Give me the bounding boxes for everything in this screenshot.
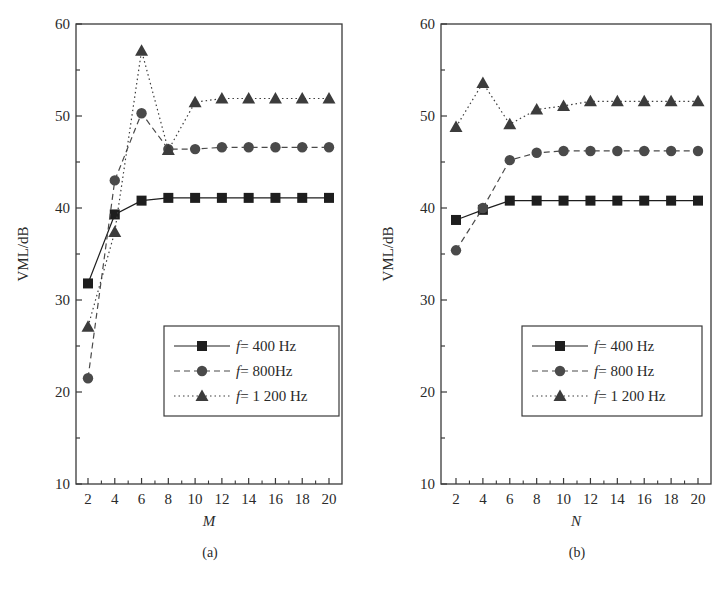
square-marker	[163, 193, 173, 203]
triangle-marker	[450, 121, 463, 132]
triangle-marker	[584, 95, 597, 107]
circle-marker	[243, 142, 253, 152]
legend-label: f= 1 200 Hz	[594, 388, 666, 404]
triangle-marker	[269, 92, 282, 104]
circle-marker	[531, 148, 541, 158]
panel-caption: (a)	[202, 545, 218, 561]
square-marker	[585, 196, 595, 206]
x-tick-label: 14	[241, 491, 257, 507]
triangle-marker	[215, 92, 228, 104]
triangle-marker	[611, 95, 624, 107]
square-marker	[217, 193, 227, 203]
x-axis-title: M	[202, 513, 217, 529]
y-axis-title: VML/dB	[380, 226, 396, 281]
x-tick-label: 2	[84, 491, 92, 507]
x-tick-label: 6	[138, 491, 146, 507]
chart-panel-b: 1020304050602468101214161820NVML/dB(b)f=…	[380, 16, 711, 561]
x-tick-label: 4	[479, 491, 487, 507]
square-marker	[451, 215, 461, 225]
y-tick-label: 50	[420, 108, 435, 124]
circle-marker	[136, 108, 146, 118]
panel-caption: (b)	[569, 545, 586, 561]
y-tick-label: 40	[55, 200, 70, 216]
circle-marker	[270, 142, 280, 152]
square-marker	[270, 193, 280, 203]
y-tick-label: 10	[420, 476, 435, 492]
series-square	[83, 193, 334, 289]
square-marker	[693, 196, 703, 206]
square-marker	[324, 193, 334, 203]
circle-marker	[83, 373, 93, 383]
triangle-marker	[296, 92, 309, 104]
y-tick-label: 20	[420, 384, 435, 400]
triangle-marker	[638, 95, 651, 107]
x-tick-label: 12	[583, 491, 598, 507]
circle-marker	[639, 146, 649, 156]
x-tick-label: 2	[452, 491, 460, 507]
series-triangle	[82, 44, 336, 332]
x-tick-label: 18	[664, 491, 679, 507]
square-marker	[110, 209, 120, 219]
circle-marker	[297, 142, 307, 152]
y-tick-label: 20	[55, 384, 70, 400]
legend: f= 400 Hzf= 800Hzf= 1 200 Hz	[164, 326, 339, 416]
x-tick-label: 10	[188, 491, 203, 507]
x-tick-label: 14	[610, 491, 626, 507]
circle-marker	[558, 146, 568, 156]
circle-marker	[585, 146, 595, 156]
square-marker	[532, 196, 542, 206]
square-marker	[612, 196, 622, 206]
y-tick-label: 40	[420, 200, 435, 216]
chart-panel-a: 1020304050602468101214161820MVML/dB(a)f=…	[15, 16, 342, 561]
series-line	[88, 198, 329, 284]
y-tick-label: 60	[420, 16, 435, 32]
x-tick-label: 6	[506, 491, 514, 507]
square-marker	[137, 196, 147, 206]
x-tick-label: 20	[691, 491, 706, 507]
triangle-marker	[135, 44, 148, 56]
y-axis-title: VML/dB	[15, 226, 31, 281]
legend: f= 400 Hzf= 800 Hzf= 1 200 Hz	[522, 326, 702, 416]
legend-label: f= 400 Hz	[594, 338, 654, 354]
x-tick-label: 12	[214, 491, 229, 507]
legend-label: f= 1 200 Hz	[236, 388, 308, 404]
y-tick-label: 30	[420, 292, 435, 308]
x-axis-title: N	[570, 513, 582, 529]
triangle-marker	[189, 96, 202, 108]
figure: 1020304050602468101214161820MVML/dB(a)f=…	[0, 0, 725, 592]
triangle-marker	[692, 95, 705, 107]
x-tick-label: 16	[268, 491, 284, 507]
square-marker	[190, 193, 200, 203]
triangle-marker	[665, 95, 678, 107]
y-tick-label: 10	[55, 476, 70, 492]
series-square	[451, 196, 703, 225]
legend-label: f= 400 Hz	[236, 338, 296, 354]
legend-label: f= 800Hz	[236, 363, 293, 379]
legend-circle-icon	[197, 366, 207, 376]
square-marker	[639, 196, 649, 206]
square-marker	[83, 278, 93, 288]
circle-marker	[693, 146, 703, 156]
series-line	[456, 201, 698, 220]
triangle-marker	[323, 92, 336, 104]
circle-marker	[505, 155, 515, 165]
triangle-marker	[503, 118, 516, 130]
x-tick-label: 8	[533, 491, 541, 507]
triangle-marker	[242, 92, 255, 104]
series-line	[88, 51, 329, 327]
square-marker	[505, 196, 515, 206]
square-marker	[666, 196, 676, 206]
circle-marker	[478, 203, 488, 213]
legend-square-icon	[197, 341, 207, 351]
circle-marker	[612, 146, 622, 156]
y-tick-label: 30	[55, 292, 70, 308]
circle-marker	[451, 245, 461, 255]
x-tick-label: 18	[295, 491, 310, 507]
circle-marker	[110, 175, 120, 185]
triangle-marker	[82, 320, 95, 332]
square-marker	[559, 196, 569, 206]
legend-square-icon	[555, 341, 565, 351]
series-triangle	[450, 76, 705, 132]
circle-marker	[190, 144, 200, 154]
square-marker	[297, 193, 307, 203]
